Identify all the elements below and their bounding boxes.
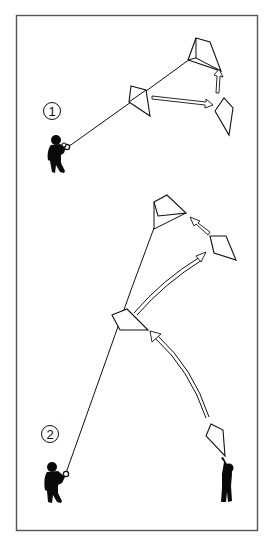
scene-2-label: 2: [42, 426, 59, 443]
arrow-right: [152, 96, 213, 108]
kite-right: [215, 98, 233, 135]
kite-launch: [206, 424, 225, 456]
arrow-curved-long: [150, 331, 209, 418]
kite-flyer-2: [44, 462, 68, 503]
kite-line-upper: [131, 228, 154, 290]
kite-illustration: 1: [0, 0, 273, 544]
scene-2-number: 2: [46, 427, 53, 442]
scene-1-label: 1: [44, 103, 61, 120]
kite-side: [210, 236, 236, 260]
scene-1-number: 1: [48, 104, 55, 119]
kite-high: [188, 38, 221, 71]
arrow-curved-up: [134, 252, 206, 315]
kite-line-lower: [68, 102, 131, 147]
kite-flyer-1: [48, 135, 70, 173]
scene-2: 2: [42, 195, 237, 503]
kite-top: [154, 195, 186, 229]
kite-helper: [221, 457, 234, 502]
reel-icon: [63, 471, 68, 476]
scene-1: 1: [44, 38, 234, 173]
arrow-diagonal: [190, 217, 210, 235]
arrow-up: [214, 69, 223, 93]
